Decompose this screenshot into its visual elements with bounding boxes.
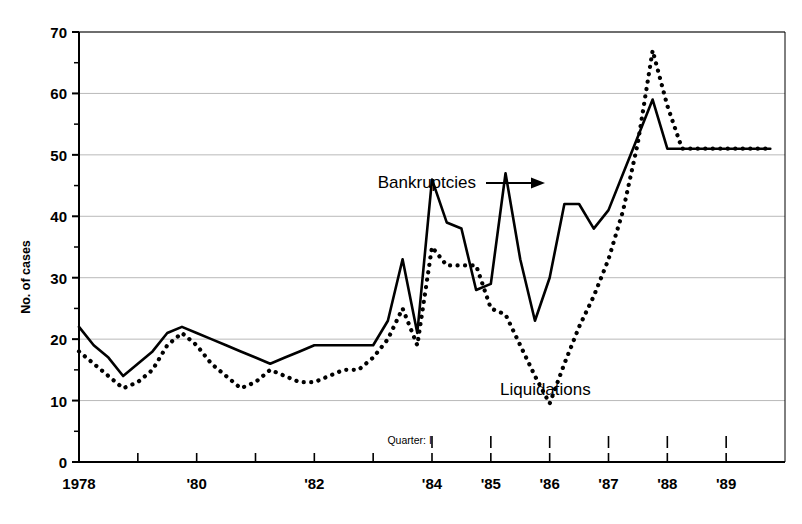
chart-figure: 010203040506070No. of cases1978'80'82'84…	[0, 0, 802, 524]
xtick-label-1989: '89	[716, 475, 736, 492]
ytick-label-10: 10	[50, 393, 67, 410]
ytick-label-40: 40	[50, 208, 67, 225]
xtick-label-1978: 1978	[62, 475, 95, 492]
xtick-label-1985: '85	[481, 475, 501, 492]
series-line-liquidations	[79, 50, 770, 403]
quarter-annotation-text: Quarter: I	[387, 434, 431, 446]
y-axis-title: No. of cases	[19, 240, 33, 314]
xtick-label-1986: '86	[540, 475, 560, 492]
ytick-label-70: 70	[50, 24, 67, 41]
xtick-label-1988: '88	[657, 475, 677, 492]
ytick-label-60: 60	[50, 85, 67, 102]
xtick-label-1980: '80	[187, 475, 207, 492]
series-label-bankruptcies: Bankruptcies	[378, 173, 476, 192]
xtick-label-1987: '87	[598, 475, 618, 492]
series-label-liquidations: Liquidations	[500, 380, 591, 399]
ytick-label-0: 0	[59, 454, 67, 471]
ytick-label-50: 50	[50, 147, 67, 164]
ytick-label-20: 20	[50, 331, 67, 348]
bankruptcies-arrow-head	[531, 178, 545, 189]
ytick-label-30: 30	[50, 270, 67, 287]
xtick-label-1982: '82	[304, 475, 324, 492]
xtick-label-1984: '84	[422, 475, 443, 492]
line-chart-canvas: 010203040506070No. of cases1978'80'82'84…	[0, 0, 802, 524]
